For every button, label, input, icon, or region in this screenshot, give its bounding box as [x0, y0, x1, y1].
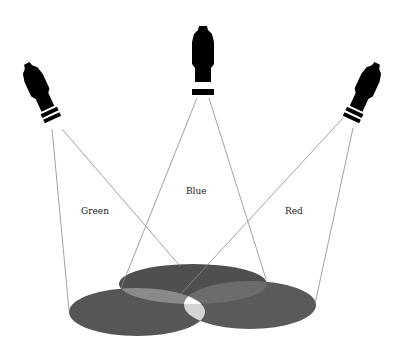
red-beam-left [178, 118, 343, 297]
red-beam-right [315, 128, 353, 304]
spotlight-diagram [0, 0, 406, 348]
red-label: Red [285, 206, 303, 216]
green-beam-right [62, 129, 180, 266]
blue-label: Blue [186, 186, 207, 196]
green-spotlight-icon [18, 59, 62, 124]
green-label: Green [81, 206, 109, 216]
green-beam-left [52, 129, 69, 310]
red-spotlight-icon [342, 59, 386, 124]
blue-spotlight-icon [192, 26, 214, 95]
light-pools [69, 264, 316, 336]
blue-beam-right [209, 98, 266, 279]
